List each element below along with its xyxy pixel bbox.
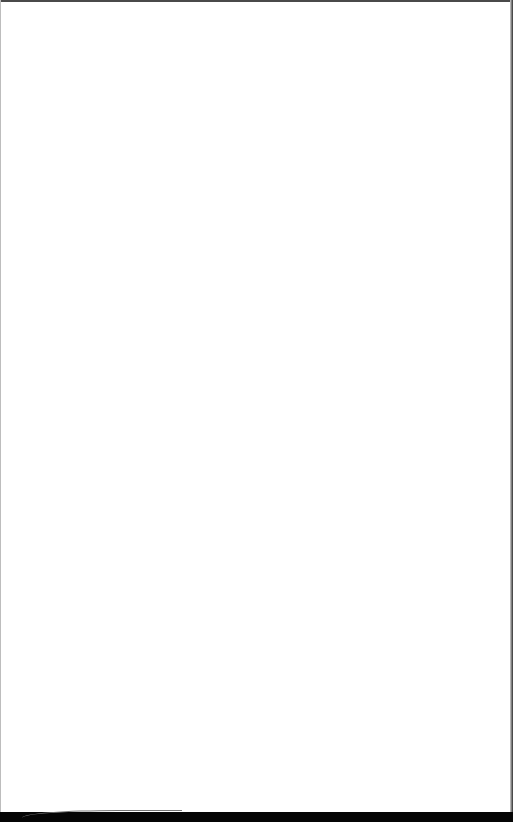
left-edge: [0, 0, 1, 812]
page-curl-shadow: [22, 810, 182, 822]
top-edge: [0, 0, 513, 2]
blank-page: [1, 2, 510, 812]
